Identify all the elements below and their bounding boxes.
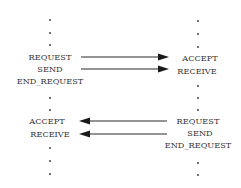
arrow-send-to-receive-reverse (79, 131, 167, 138)
arrowhead-left-icon (79, 131, 90, 138)
arrow-request-to-accept-reverse (79, 118, 167, 125)
right-ellipsis-dot (197, 174, 199, 176)
left-ellipsis-dot (49, 19, 51, 21)
left-ellipsis-dot (49, 44, 51, 46)
right-ellipsis-dot (197, 85, 199, 87)
right-ellipsis-dot (197, 33, 199, 35)
right-receive-label: RECEIVE (177, 66, 217, 76)
message-sequence-diagram: REQUEST SEND END_REQUEST ACCEPT RECEIVE … (0, 0, 241, 188)
right-ellipsis-dot (197, 20, 199, 22)
left-ellipsis-dot (49, 147, 51, 149)
right-ellipsis-dot (197, 109, 199, 111)
left-end-request-label: END_REQUEST (17, 76, 84, 86)
left-accept-label: ACCEPT (28, 116, 65, 126)
arrow-request-to-accept (81, 54, 169, 61)
arrowhead-left-icon (79, 118, 90, 125)
right-ellipsis-dot (197, 162, 199, 164)
right-ellipsis-dot (197, 97, 199, 99)
right-request-label: REQUEST (177, 116, 220, 126)
right-send-label: SEND (187, 128, 213, 138)
left-ellipsis-dot (49, 160, 51, 162)
left-ellipsis-dot (49, 173, 51, 175)
right-ellipsis-dot (197, 46, 199, 48)
left-ellipsis-dot (49, 97, 51, 99)
left-request-label: REQUEST (29, 52, 72, 62)
arrowhead-right-icon (158, 54, 169, 61)
arrow-send-to-receive (81, 66, 169, 73)
left-ellipsis-dot (49, 32, 51, 34)
right-accept-label: ACCEPT (181, 53, 218, 63)
right-end-request-label: END_REQUEST (165, 140, 232, 150)
arrowhead-right-icon (158, 66, 169, 73)
left-send-label: SEND (37, 64, 63, 74)
left-receive-label: RECEIVE (30, 129, 70, 139)
left-ellipsis-dot (49, 109, 51, 111)
